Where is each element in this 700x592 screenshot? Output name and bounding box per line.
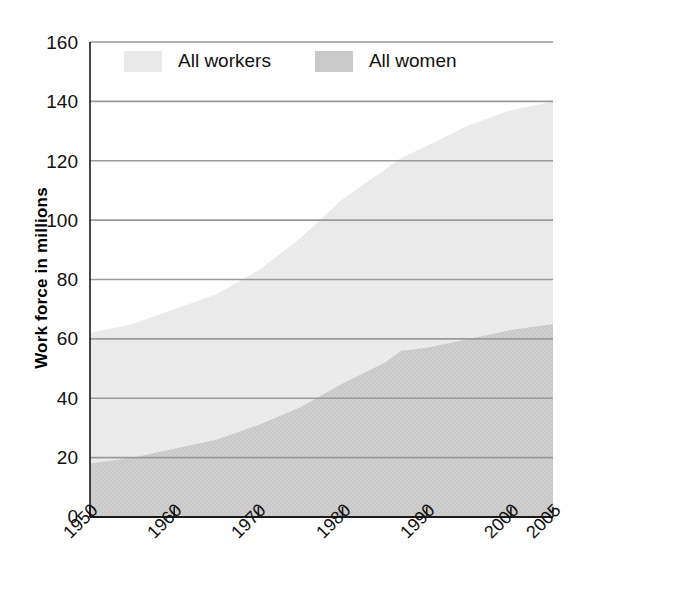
legend-swatch-all-women — [315, 51, 353, 72]
plot-area — [0, 0, 700, 592]
legend-item-all-workers: All workers — [124, 50, 271, 72]
legend-label-all-workers: All workers — [178, 50, 271, 72]
legend-item-all-women: All women — [315, 50, 457, 72]
area-chart: Work force in millions 160 140 120 100 8… — [0, 0, 700, 592]
legend-swatch-all-workers — [124, 51, 162, 72]
legend: All workers All women — [124, 50, 457, 72]
legend-label-all-women: All women — [369, 50, 457, 72]
